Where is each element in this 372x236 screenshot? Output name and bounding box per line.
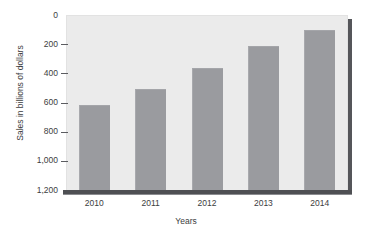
y-tick-label-200: 200: [44, 40, 58, 49]
y-tick-label-1200: 1,200: [37, 186, 58, 195]
bar-2011[interactable]: [135, 89, 166, 190]
x-tick-label-2013: 2013: [243, 199, 283, 208]
x-tick-label-2014: 2014: [300, 199, 340, 208]
x-tick-label-2010: 2010: [74, 199, 114, 208]
bar-chart: 1,200 1,000 800 600 400 200 0 2010 2011 …: [0, 0, 372, 236]
x-axis-title: Years: [0, 216, 372, 226]
bar-series: [66, 15, 348, 190]
y-tick-label-1000: 1,000: [37, 156, 58, 165]
x-tick-label-2012: 2012: [187, 199, 227, 208]
y-tick-label-800: 800: [44, 127, 58, 136]
x-tick-label-2011: 2011: [131, 199, 171, 208]
x-axis-baseline-highlight: [63, 194, 352, 195]
y-axis-title: Sales in billions of dollars: [15, 28, 25, 158]
bar-2014[interactable]: [304, 30, 335, 190]
bar-2010[interactable]: [79, 105, 110, 190]
bar-2013[interactable]: [248, 46, 279, 190]
y-tick-label-600: 600: [44, 98, 58, 107]
y-tick-label-400: 400: [44, 69, 58, 78]
y-tick-label-0: 0: [53, 11, 58, 20]
bar-2012[interactable]: [192, 68, 223, 191]
